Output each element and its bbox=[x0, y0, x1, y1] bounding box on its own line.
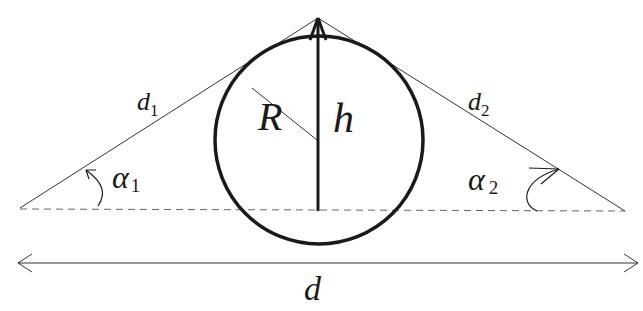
label-d: d bbox=[304, 270, 322, 307]
dimension-arrow-d bbox=[18, 254, 638, 272]
label-h: h bbox=[333, 95, 354, 141]
label-d1: d1 bbox=[137, 87, 159, 120]
label-alpha1: α1 bbox=[112, 159, 140, 196]
label-d2: d2 bbox=[468, 87, 490, 120]
alpha2-arc-icon bbox=[527, 168, 559, 211]
alpha1-arc-icon bbox=[86, 170, 102, 206]
label-R: R bbox=[257, 94, 282, 139]
label-alpha2: α2 bbox=[468, 161, 498, 198]
diagram-canvas: d1 d2 R h α1 α2 d bbox=[0, 0, 643, 311]
